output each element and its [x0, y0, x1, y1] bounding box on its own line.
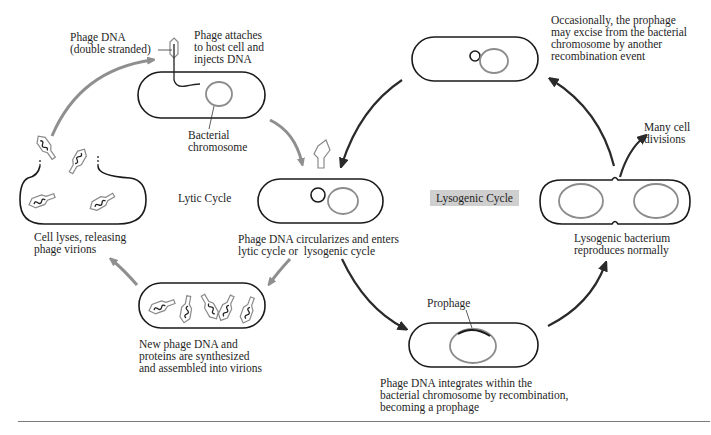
lysing-cell	[20, 133, 146, 224]
lysogenic-cycle-label: Lysogenic Cycle	[430, 190, 519, 206]
label-new-phage: New phage DNA and proteins are synthesiz…	[139, 338, 262, 374]
label-lysogenic-bacterium: Lysogenic bacterium reproduces normally	[574, 232, 670, 256]
label-prophage: Prophage	[427, 297, 470, 309]
bottom-rule	[18, 421, 710, 422]
dividing-cell	[540, 178, 690, 225]
label-bacterial-chromosome: Bacterial chromosome	[188, 129, 247, 153]
label-circularizes: Phage DNA circularizes and enters lytic …	[238, 233, 399, 257]
label-integrates: Phage DNA integrates within the bacteria…	[380, 377, 568, 413]
label-cell-lyses: Cell lyses, releasing phage virions	[34, 231, 126, 255]
label-excise: Occasionally, the prophage may excise fr…	[551, 14, 687, 62]
label-many-divisions: Many cell divisions	[644, 121, 690, 145]
lytic-cycle-label: Lytic Cycle	[178, 192, 231, 204]
excising-cell	[412, 37, 538, 81]
phage-cycle-diagram	[0, 0, 711, 435]
prophage-cell	[409, 310, 538, 367]
synthesis-cell	[139, 283, 265, 328]
label-phage-dna: Phage DNA (double stranded)	[70, 31, 151, 55]
circularizing-cell	[258, 140, 383, 223]
label-phage-attaches: Phage attaches to host cell and injects …	[194, 29, 264, 65]
